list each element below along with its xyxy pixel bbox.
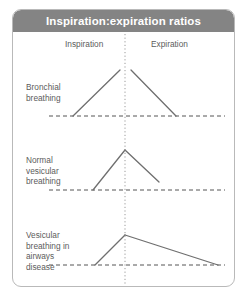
page-title: Inspiration:expiration ratios (46, 15, 201, 27)
breathing-waveform-chart (13, 32, 235, 287)
trace-1-inspiration (93, 150, 125, 190)
chart-plot-area: Inspiration Expiration Bronchial breathi… (13, 32, 234, 287)
figure-panel: Inspiration:expiration ratios Inspiratio… (12, 9, 235, 287)
figure-header: Inspiration:expiration ratios (13, 10, 234, 32)
baseline-group (49, 116, 225, 265)
waveform-trace-group (73, 70, 218, 265)
trace-2-inspiration (95, 235, 125, 265)
trace-0-expiration (131, 70, 176, 116)
trace-2-expiration (125, 235, 218, 265)
trace-1-expiration (125, 150, 159, 182)
trace-0-inspiration (73, 70, 120, 116)
